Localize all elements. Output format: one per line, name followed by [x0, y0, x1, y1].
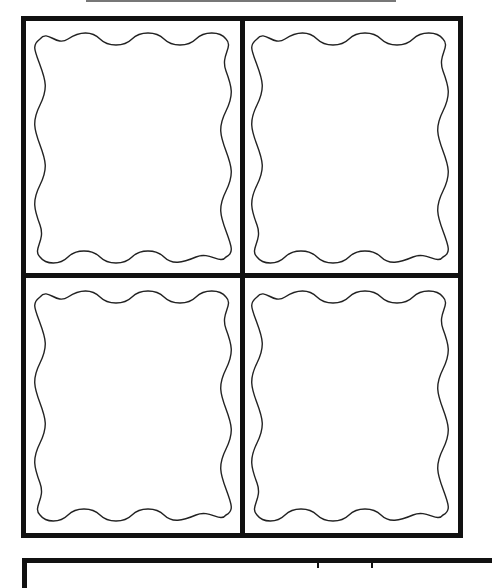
wavy-border-icon: [34, 289, 232, 523]
wavy-border-icon: [251, 31, 449, 265]
bottom-tick: [371, 563, 373, 568]
panel-top-left: [34, 31, 232, 265]
panel-bottom-left: [34, 289, 232, 523]
top-edge-bar: [86, 0, 396, 2]
bottom-tick: [317, 563, 319, 568]
horizontal-divider: [21, 273, 463, 278]
bottom-box: [22, 558, 492, 588]
panel-top-right: [251, 31, 449, 265]
panel-bottom-right: [251, 289, 449, 523]
wavy-border-icon: [34, 31, 232, 265]
wavy-border-icon: [251, 289, 449, 523]
